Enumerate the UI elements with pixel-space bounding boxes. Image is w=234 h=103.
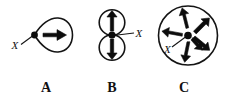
panel-c-label: C bbox=[179, 80, 189, 95]
panel-a-leader-line bbox=[21, 36, 33, 45]
panel-a-point-label: X bbox=[11, 39, 20, 51]
figure-container: X A X bbox=[0, 0, 234, 103]
panel-c-point-label: X bbox=[163, 43, 172, 55]
panel-a-arrow-east bbox=[43, 30, 67, 41]
panel-c-point-dot bbox=[184, 32, 192, 40]
panel-b-point-label: X bbox=[135, 27, 144, 39]
panel-b-arrow-south bbox=[107, 39, 117, 60]
panel-c-arrow-northeast bbox=[194, 18, 210, 34]
panel-c-arrow-north-northwest bbox=[179, 8, 188, 29]
panel-c-arrow-west bbox=[162, 28, 183, 38]
panel-b-label: B bbox=[107, 80, 116, 95]
panel-c: X bbox=[159, 6, 218, 95]
panel-b-arrow-north bbox=[107, 11, 117, 32]
panel-b-point-dot bbox=[108, 31, 115, 38]
panel-a-label: A bbox=[41, 80, 52, 95]
panel-a-point-dot bbox=[31, 32, 38, 39]
diagram-canvas: X A X bbox=[0, 0, 234, 103]
panel-c-leader-line bbox=[172, 37, 186, 47]
panel-b: X B bbox=[99, 10, 143, 95]
panel-c-arrow-south-southwest bbox=[181, 42, 191, 63]
panel-a: X A bbox=[11, 18, 73, 95]
